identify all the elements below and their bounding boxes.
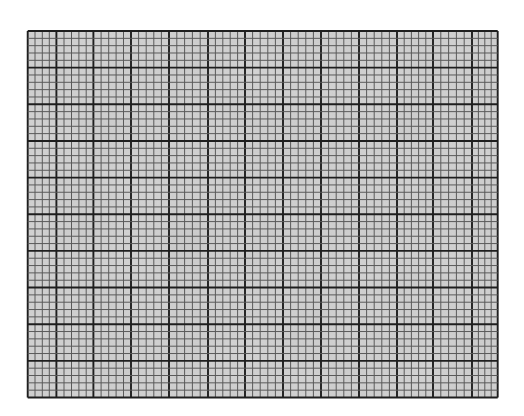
- graph-paper-sheet: [0, 0, 524, 416]
- grid-area: [28, 31, 498, 398]
